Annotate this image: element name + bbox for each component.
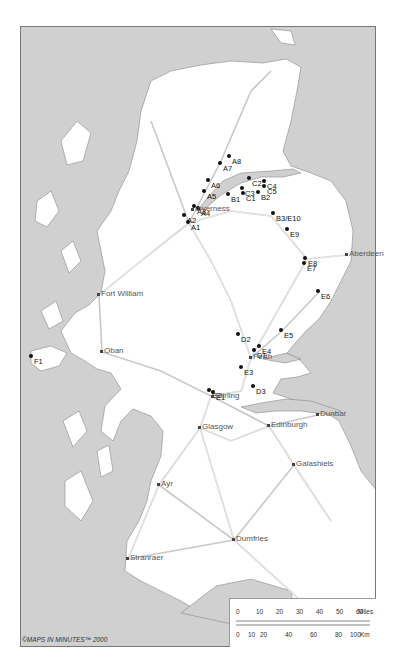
town-marker [292,463,295,466]
site-marker[interactable] [251,384,255,388]
km-unit: Km [360,631,370,638]
town-label: Inverness [195,205,230,213]
miles-tick-label: 40 [316,608,323,615]
site-marker[interactable] [236,332,240,336]
site-marker[interactable] [182,213,186,217]
km-tick-label: 0 [236,631,240,638]
town-marker [126,557,129,560]
site-marker[interactable] [206,178,210,182]
miles-tick-label: 10 [256,608,263,615]
town-label: Edinburgh [271,421,307,429]
site-label: F1 [34,358,43,366]
km-tick-label: 80 [335,631,342,638]
miles-tick-label: 30 [296,608,303,615]
town-marker [97,293,100,296]
site-marker[interactable] [257,344,261,348]
site-label: A7 [223,165,232,173]
miles-tick-label: 0 [236,608,240,615]
site-marker[interactable] [218,161,222,165]
km-tick-label: 40 [285,631,292,638]
miles-unit: Miles [358,608,373,615]
site-label: B3/E10 [276,215,301,223]
scale-bar-ruler [230,599,376,647]
site-label: B1 [231,196,240,204]
site-label: D2 [241,336,251,344]
site-marker[interactable] [202,189,206,193]
town-marker [267,424,270,427]
town-label: Fort William [101,290,143,298]
miles-tick-label: 20 [276,608,283,615]
town-marker [191,208,194,211]
site-marker[interactable] [271,211,275,215]
site-label: A1 [191,224,200,232]
town-marker [232,538,235,541]
town-label: Glasgow [202,423,233,431]
site-label: A2 [187,217,196,225]
site-marker[interactable] [256,190,260,194]
site-marker[interactable] [316,289,320,293]
site-marker[interactable] [240,186,244,190]
site-label: D3 [256,388,266,396]
town-marker [249,356,252,359]
site-marker[interactable] [262,184,266,188]
town-label: Galashiels [296,460,333,468]
town-marker [100,350,103,353]
site-label: E8 [308,260,317,268]
site-label: C5 [267,188,277,196]
town-label: Ayr [161,480,173,488]
site-marker[interactable] [239,365,243,369]
town-marker [198,426,201,429]
site-marker[interactable] [262,179,266,183]
site-label: A5 [207,193,216,201]
scale-bar: 0102030405060 01020406080100 Miles Km [229,598,376,647]
town-marker [316,413,319,416]
town-label: Perth [253,353,272,361]
site-label: C2 [252,180,262,188]
town-label: Aberdeen [349,250,384,258]
site-label: E6 [321,293,330,301]
site-marker[interactable] [303,256,307,260]
town-marker [157,483,160,486]
town-label: Dumfries [236,535,268,543]
site-marker[interactable] [29,354,33,358]
site-marker[interactable] [247,176,251,180]
site-label: A6 [211,182,220,190]
town-label: Stranraer [130,554,163,562]
site-label: A8 [232,158,241,166]
town-marker [345,253,348,256]
km-tick-label: 10 [248,631,255,638]
site-label: E9 [290,231,299,239]
town-label: Stirling [215,392,239,400]
site-marker[interactable] [226,192,230,196]
site-label: C3 [245,190,255,198]
town-label: Dunbar [320,410,346,418]
site-marker[interactable] [285,227,289,231]
site-label: E5 [284,332,293,340]
km-tick-label: 60 [310,631,317,638]
site-marker[interactable] [302,261,306,265]
site-marker[interactable] [227,154,231,158]
site-label: E3 [244,369,253,377]
km-tick-label: 20 [260,631,267,638]
site-marker[interactable] [279,328,283,332]
copyright-notice: ©MAPS IN MINUTES™ 2000 [22,636,107,643]
map-frame [20,26,376,647]
town-marker [211,395,214,398]
landmass [21,27,376,647]
miles-tick-label: 50 [336,608,343,615]
town-label: Oban [104,347,124,355]
site-marker[interactable] [207,388,211,392]
